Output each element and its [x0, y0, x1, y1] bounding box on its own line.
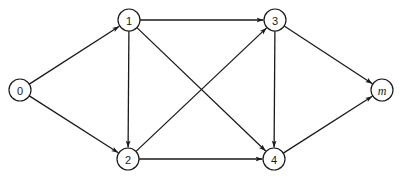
edge-4-to-m	[283, 96, 372, 153]
node-label: 3	[272, 15, 278, 27]
node-label: 4	[271, 154, 277, 166]
node-2: 2	[117, 148, 139, 170]
edge-3-to-m	[284, 26, 372, 84]
node-0: 0	[9, 79, 31, 101]
edge-3-to-4	[274, 31, 275, 148]
node-1: 1	[118, 9, 140, 31]
node-m: m	[371, 79, 393, 101]
node-3: 3	[264, 9, 286, 31]
node-label: m	[378, 84, 387, 98]
edge-1-to-2	[128, 31, 129, 148]
node-label: 0	[17, 85, 23, 97]
directed-graph-diagram: 01234m	[0, 0, 403, 180]
edges-layer	[29, 20, 372, 159]
node-4: 4	[263, 148, 285, 170]
edge-0-to-1	[29, 26, 119, 84]
node-label: 1	[126, 15, 132, 27]
node-label: 2	[125, 154, 131, 166]
edge-0-to-2	[29, 96, 118, 153]
